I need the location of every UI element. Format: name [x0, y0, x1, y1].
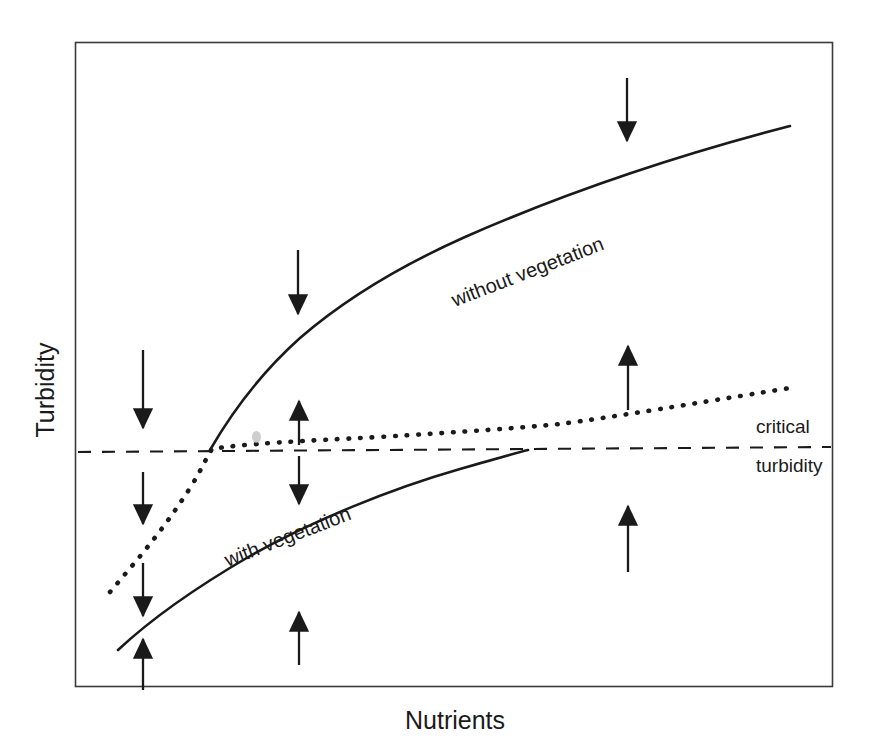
scan-smudge-artifact — [252, 431, 261, 443]
y-axis-label: Turbidity — [31, 343, 60, 438]
unstable-equilibrium-curve — [110, 388, 790, 592]
critical-label-line2: turbidity — [756, 455, 823, 477]
flow-arrow-group — [143, 78, 628, 690]
plot-frame — [76, 43, 833, 687]
critical-label-line1: critical — [756, 416, 810, 438]
x-axis-label: Nutrients — [405, 706, 505, 735]
curve-label-without-vegetation: without vegetation — [447, 232, 606, 311]
figure-root: without vegetation with vegetation Turbi… — [0, 0, 869, 748]
curve-label-with-vegetation: with vegetation — [220, 502, 353, 571]
curve-with-vegetation — [118, 450, 528, 650]
diagram-canvas: without vegetation with vegetation — [0, 0, 869, 748]
critical-turbidity-line — [78, 447, 831, 452]
